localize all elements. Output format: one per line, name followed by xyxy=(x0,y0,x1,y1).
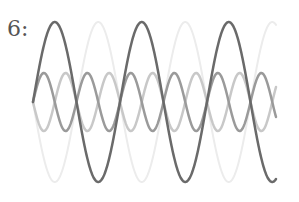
sine-wave-diagram xyxy=(0,0,299,202)
small-wave-light xyxy=(33,73,276,131)
small-wave-medium xyxy=(33,73,276,131)
